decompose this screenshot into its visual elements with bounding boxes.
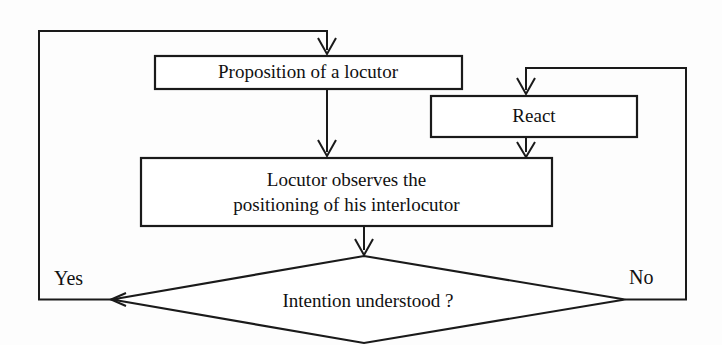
node-observe[interactable]: Locutor observes the positioning of his … [141,158,552,226]
edge-label-no: No [629,266,653,288]
node-proposition[interactable]: Proposition of a locutor [155,56,462,89]
edge-proposition-to-observe [318,89,336,156]
edge-observe-to-decision [355,226,373,255]
node-observe-label-line1: Locutor observes the [267,169,426,190]
flowchart-canvas: Proposition of a locutor React Locutor o… [0,0,722,345]
flowchart-svg: Proposition of a locutor React Locutor o… [0,0,722,345]
node-react[interactable]: React [431,96,637,137]
node-decision-label: Intention understood ? [283,290,454,311]
node-react-label: React [512,105,556,126]
node-decision[interactable]: Intention understood ? [112,256,625,343]
edge-label-yes: Yes [54,267,83,289]
edge-react-to-observe [517,137,535,157]
node-observe-label-line2: positioning of his interlocutor [233,194,460,215]
node-proposition-label: Proposition of a locutor [218,61,399,82]
